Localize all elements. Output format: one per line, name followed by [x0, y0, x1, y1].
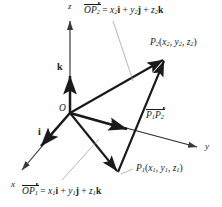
- op2-vector-arrow: [70, 60, 163, 113]
- k-unit-vector-label: k: [57, 62, 63, 72]
- y-axis-label: y: [205, 142, 209, 151]
- p1-point-label: P1(x1, y1, z1): [136, 164, 183, 174]
- i-unit-vector-arrow: [41, 113, 70, 146]
- op2-equation-leader: [113, 21, 133, 81]
- diagram-canvas: [0, 0, 222, 207]
- j-unit-vector-label: j: [110, 120, 113, 130]
- p1p2-overbar-arrow-group: P1P2: [146, 110, 164, 121]
- op2-plus-1: +: [120, 5, 130, 15]
- op1-overbar-arrow-group: OP1: [22, 186, 38, 197]
- p2-paren-close: ): [194, 37, 197, 47]
- leader-lines: [62, 21, 133, 180]
- vector-diagram-figure: x y z O i j k P2(x2, y2, z2) P1(x1, y1, …: [0, 0, 222, 207]
- op1-plus-1: +: [58, 186, 68, 196]
- op1-sub: 1: [35, 189, 38, 196]
- op2-plus-2: +: [141, 5, 151, 15]
- op1-overbar-arrow-icon: [22, 185, 39, 186]
- op2-term3-basis-k: k: [158, 5, 163, 15]
- op1-plus-2: +: [79, 186, 89, 196]
- p1p2-overbar-arrow-icon: [146, 109, 165, 110]
- i-unit-vector-label: i: [38, 127, 41, 137]
- origin-label: O: [59, 104, 66, 114]
- op2-equals: =: [100, 5, 110, 15]
- z-axis-label: z: [68, 2, 72, 11]
- p1p2-vector-label: P1P2: [146, 110, 164, 121]
- p1p2-p2-sub: 2: [161, 113, 164, 120]
- op1-term3-basis-k: k: [96, 186, 101, 196]
- op1-equals: =: [38, 186, 48, 196]
- p2-point-label: P2(x2, y2, z2): [150, 38, 197, 48]
- op2-overbar-arrow-group: OP2: [84, 5, 100, 16]
- op1-equation-leader: [62, 139, 99, 180]
- op2-sub: 2: [97, 8, 100, 15]
- op2-overbar-arrow-icon: [84, 4, 101, 5]
- p1-label-leader: [121, 169, 133, 174]
- op2-o: O: [84, 5, 91, 15]
- p1-paren-close: ): [180, 163, 183, 173]
- x-axis-label: x: [11, 180, 15, 189]
- j-unit-vector-arrow: [70, 113, 127, 129]
- op1-o: O: [22, 186, 29, 196]
- op2-equation: OP2 = x2i + y2j + z2k: [84, 5, 163, 16]
- op1-equation: OP1 = x1i + y1j + z1k: [22, 186, 101, 197]
